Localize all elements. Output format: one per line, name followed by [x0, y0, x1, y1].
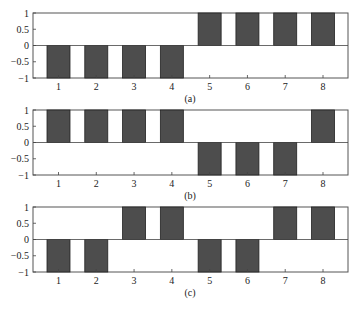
x-tick-label: 7 [283, 275, 288, 286]
y-tick-label: −0.5 [11, 250, 29, 261]
y-tick-label: 1 [24, 202, 29, 213]
y-tick-label: 0 [24, 40, 29, 51]
bar [85, 110, 108, 143]
bar [274, 207, 297, 240]
y-tick-label: 0.5 [17, 121, 30, 132]
bar [160, 207, 183, 240]
x-tick-label: 7 [283, 81, 288, 92]
bar [312, 110, 335, 143]
bar [47, 240, 70, 273]
x-tick-label: 5 [207, 275, 212, 286]
figure: 10.50−0.5−112345678(a)10.50−0.5−11234567… [0, 0, 358, 312]
x-tick-label: 3 [132, 81, 137, 92]
bar [85, 240, 108, 273]
x-tick-label: 2 [94, 178, 99, 189]
x-tick-label: 5 [207, 81, 212, 92]
bar [236, 240, 259, 273]
x-tick-label: 8 [321, 275, 326, 286]
bar [47, 46, 70, 79]
y-tick-label: −1 [18, 267, 29, 278]
x-tick-label: 1 [56, 275, 61, 286]
subplot-caption: (b) [184, 190, 196, 202]
subplot-a: 10.50−0.5−112345678(a) [11, 8, 348, 106]
x-tick-label: 8 [321, 178, 326, 189]
bar [198, 240, 221, 273]
bar [312, 207, 335, 240]
bar [274, 143, 297, 176]
x-tick-label: 3 [132, 275, 137, 286]
y-tick-label: −0.5 [11, 56, 29, 67]
x-tick-label: 6 [245, 178, 250, 189]
y-tick-label: 0.5 [17, 24, 30, 35]
subplot-c: 10.50−0.5−112345678(c) [11, 202, 348, 300]
subplot-caption: (a) [184, 93, 195, 105]
y-tick-label: 1 [24, 8, 29, 19]
x-tick-label: 4 [169, 275, 174, 286]
y-tick-label: −0.5 [11, 153, 29, 164]
x-tick-label: 4 [169, 178, 174, 189]
x-tick-label: 5 [207, 178, 212, 189]
x-tick-label: 7 [283, 178, 288, 189]
subplot-b: 10.50−0.5−112345678(b) [11, 105, 348, 203]
bar [123, 110, 146, 143]
x-tick-label: 1 [56, 178, 61, 189]
y-tick-label: 1 [24, 105, 29, 116]
bar [236, 13, 259, 46]
bar [160, 46, 183, 79]
subplot-caption: (c) [184, 287, 195, 299]
x-tick-label: 1 [56, 81, 61, 92]
y-tick-label: 0 [24, 137, 29, 148]
x-tick-label: 2 [94, 275, 99, 286]
x-tick-label: 4 [169, 81, 174, 92]
y-tick-label: 0 [24, 234, 29, 245]
bar [274, 13, 297, 46]
x-tick-label: 3 [132, 178, 137, 189]
bar [198, 13, 221, 46]
x-tick-label: 8 [321, 81, 326, 92]
bar [123, 46, 146, 79]
bar [312, 13, 335, 46]
y-tick-label: 0.5 [17, 218, 30, 229]
y-tick-label: −1 [18, 170, 29, 181]
bar [85, 46, 108, 79]
bar [236, 143, 259, 176]
y-tick-label: −1 [18, 73, 29, 84]
bar [123, 207, 146, 240]
x-tick-label: 6 [245, 81, 250, 92]
bar [47, 110, 70, 143]
x-tick-label: 6 [245, 275, 250, 286]
bar [198, 143, 221, 176]
bar [160, 110, 183, 143]
x-tick-label: 2 [94, 81, 99, 92]
